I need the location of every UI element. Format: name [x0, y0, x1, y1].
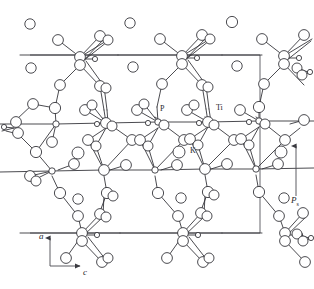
o-atom [222, 159, 233, 170]
o-atom [69, 159, 80, 170]
o-atom [143, 141, 153, 151]
o-atom [107, 121, 117, 131]
o-atom [209, 120, 219, 130]
o-atom [177, 59, 188, 70]
o-atom [103, 253, 113, 263]
o-atom [54, 187, 65, 198]
k-atom [275, 146, 287, 158]
o-atom [47, 137, 58, 148]
ti-atom [53, 121, 59, 127]
axis-c-label: c [83, 268, 87, 277]
o-atom [204, 253, 214, 263]
o-atom [203, 82, 213, 92]
o-atom [55, 80, 66, 91]
o-atom [259, 79, 270, 90]
k-atom [176, 193, 186, 203]
o-atom [178, 236, 189, 247]
o-atom [101, 212, 111, 222]
o-atom [108, 191, 118, 201]
o-atom [87, 100, 97, 110]
p-atom [99, 165, 110, 176]
o-atom [195, 232, 200, 237]
o-atom [300, 257, 311, 268]
o-atom [159, 120, 169, 130]
o-atom [101, 83, 111, 93]
o-atom [92, 56, 97, 61]
k-atom [279, 193, 289, 203]
k-atom [232, 61, 242, 71]
o-atom [73, 211, 84, 222]
axis-a-label: a [39, 232, 44, 241]
polarization-subscript: s [297, 201, 299, 207]
o-atom [296, 55, 301, 60]
ti-atom [253, 166, 259, 172]
k-atom [173, 146, 185, 158]
o-atom [209, 190, 219, 200]
ti-atom [49, 168, 55, 174]
o-atom [1, 124, 6, 129]
o-atom [297, 70, 307, 80]
o-atom [202, 211, 212, 221]
o-atom [91, 141, 101, 151]
o-atom [94, 232, 99, 237]
o-atom [189, 100, 199, 110]
o-atom [273, 159, 284, 170]
titanium-label: Ti [216, 104, 223, 112]
structure-drawing [0, 0, 314, 289]
o-atom [173, 211, 184, 222]
o-atom [253, 101, 264, 112]
o-atom [30, 146, 41, 157]
k-atom [125, 18, 135, 28]
o-atom [28, 99, 39, 110]
k-atom [72, 147, 84, 159]
o-atom [152, 187, 163, 198]
k-atom [128, 62, 138, 72]
o-atom [298, 236, 308, 246]
o-atom [77, 236, 88, 247]
o-atom [103, 35, 113, 45]
o-atom [280, 236, 291, 247]
o-atom [49, 102, 60, 113]
o-atom [162, 253, 173, 264]
crystal-structure-figure: P Ti K a c Ps [0, 0, 314, 289]
k-atom [26, 63, 36, 73]
o-atom [280, 135, 291, 146]
o-atom [246, 119, 251, 124]
o-atom [260, 119, 270, 129]
o-atom [121, 160, 132, 171]
polarization-label: Ps [291, 196, 299, 207]
o-atom [235, 105, 246, 116]
potassium-label: K [190, 147, 196, 155]
o-atom [194, 55, 199, 60]
o-atom [279, 59, 290, 70]
o-atom [75, 60, 86, 71]
o-atom [274, 211, 285, 222]
o-atom [298, 208, 309, 219]
o-atom [299, 30, 310, 41]
ti-atom [152, 167, 158, 173]
o-atom [307, 69, 312, 74]
o-atom [253, 186, 264, 197]
o-atom [94, 121, 99, 126]
o-atom [53, 35, 64, 46]
k-atom [226, 16, 237, 27]
o-atom [299, 115, 310, 126]
o-atom [308, 235, 313, 240]
o-atom [157, 79, 168, 90]
o-atom [172, 160, 183, 171]
k-atom [73, 194, 83, 204]
o-atom [13, 128, 24, 139]
o-atom [155, 34, 166, 45]
phosphorus-label: P [160, 105, 164, 113]
o-atom [244, 140, 254, 150]
k-atom [25, 19, 35, 29]
o-atom [11, 117, 22, 128]
o-atom [139, 99, 149, 109]
o-atom [205, 34, 215, 44]
o-atom [196, 120, 201, 125]
o-atom [61, 253, 72, 264]
p-atom [200, 164, 211, 175]
o-atom [257, 34, 268, 45]
o-atom [145, 120, 150, 125]
o-atom [31, 176, 41, 186]
